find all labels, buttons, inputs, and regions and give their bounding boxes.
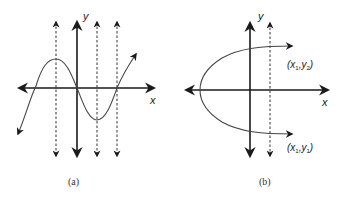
y-axis-label: y (257, 10, 265, 22)
caption-b: (b) (259, 176, 271, 188)
panel-b: y x (x1,y2) (x1,y1) (b) (186, 10, 328, 188)
point-label-x1-y2: (x1,y2) (287, 59, 313, 71)
x-axis-label: x (149, 94, 156, 106)
x-axis-label: x (321, 96, 328, 108)
point-label-x1-y1: (x1,y1) (287, 142, 313, 154)
panel-a: y x (a) (18, 10, 156, 188)
caption-a: (a) (68, 176, 79, 188)
vertical-line-test-figure: y x (a) y x (x1,y2) (x1,y1) (b) (0, 0, 344, 200)
y-axis-label: y (82, 10, 90, 22)
